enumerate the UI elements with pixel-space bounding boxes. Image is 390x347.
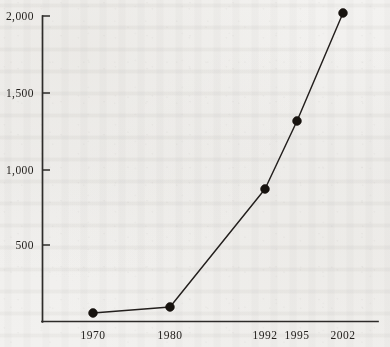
data-point-1980	[166, 303, 175, 312]
y-axis-label-500: 500	[0, 239, 34, 251]
plot-area	[0, 0, 390, 347]
y-axis-label-1000: 1,000	[0, 164, 34, 176]
data-point-1992	[261, 185, 270, 194]
data-series-line	[93, 13, 343, 313]
y-axis-label-2000: 2,000	[0, 10, 34, 22]
x-axis-label-2002: 2002	[331, 329, 356, 341]
x-axis-label-1980: 1980	[158, 329, 183, 341]
data-point-1970	[89, 309, 98, 318]
x-axis-label-1992: 1992	[253, 329, 278, 341]
y-axis-label-1500: 1,500	[0, 87, 34, 99]
data-point-markers	[89, 9, 348, 318]
line-chart-figure: 2,000 1,500 1,000 500 1970 1980 1992 199…	[0, 0, 390, 347]
data-point-2002	[339, 9, 348, 18]
data-point-1995	[293, 117, 302, 126]
x-axis-label-1970: 1970	[81, 329, 106, 341]
x-axis-label-1995: 1995	[285, 329, 310, 341]
